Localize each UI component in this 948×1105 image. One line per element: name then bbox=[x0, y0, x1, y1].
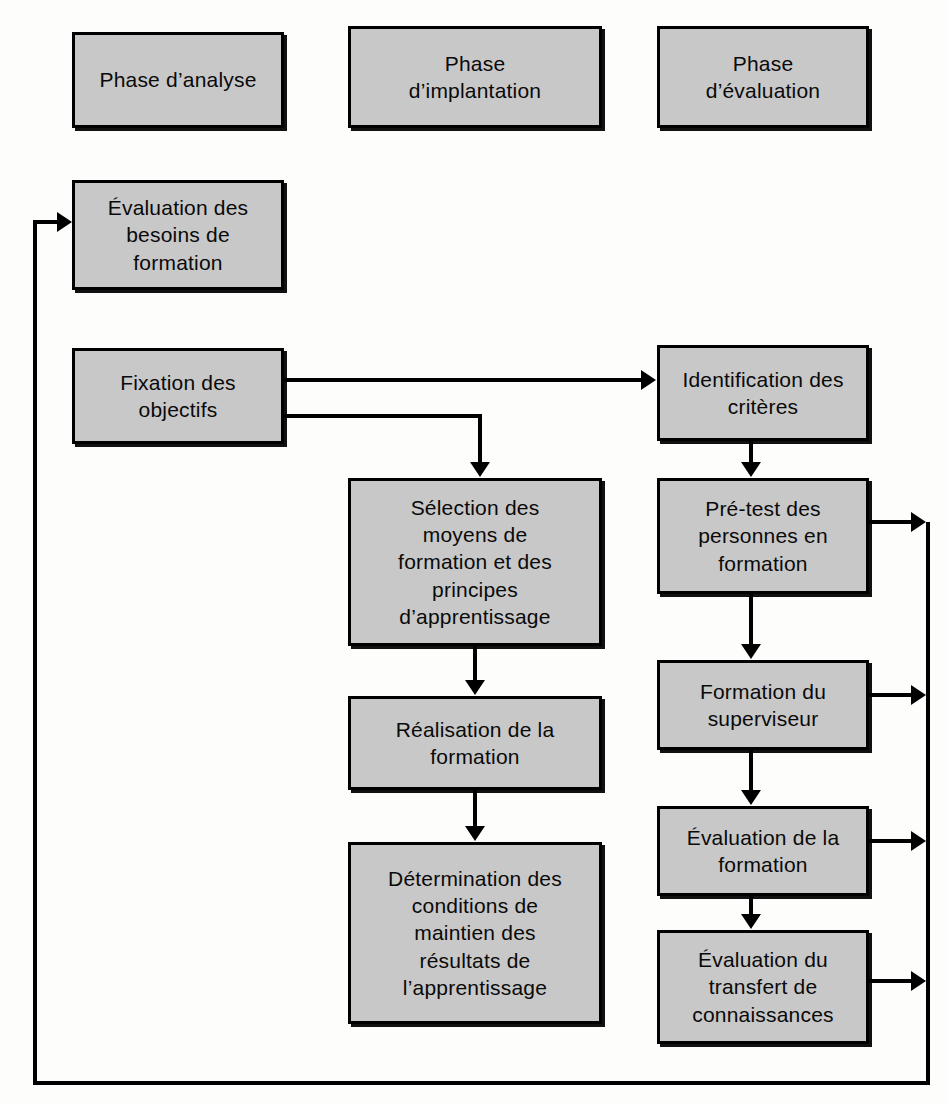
arrowhead-feedback-to-besoins bbox=[57, 212, 72, 232]
arrowhead-superviseur-to-bus bbox=[911, 685, 926, 705]
connector-evaluation-formation-to-bus bbox=[869, 839, 915, 843]
node-identification-criteres: Identification des critères bbox=[657, 345, 869, 441]
arrowhead-evaluation-formation-to-bus bbox=[911, 831, 926, 851]
connector-selection-to-realisation bbox=[473, 646, 477, 682]
connector-fixation-to-identification bbox=[284, 378, 644, 382]
arrowhead-identification-to-pretest bbox=[741, 462, 761, 477]
flowchart-diagram: Phase d’analyse Phase d’implantation Pha… bbox=[0, 0, 948, 1105]
arrowhead-evaluation-formation-to-transfert bbox=[741, 914, 761, 929]
arrowhead-pretest-to-bus bbox=[911, 512, 926, 532]
node-fixation-objectifs: Fixation des objectifs bbox=[72, 348, 284, 444]
arrowhead-transfert-to-bus bbox=[911, 971, 926, 991]
arrowhead-fixation-to-identification bbox=[641, 370, 656, 390]
node-evaluation-besoins: Évaluation des besoins de formation bbox=[72, 180, 284, 290]
arrowhead-pretest-to-superviseur bbox=[741, 644, 761, 659]
node-realisation-formation: Réalisation de la formation bbox=[348, 696, 602, 790]
header-box-phase-analyse: Phase d’analyse bbox=[72, 32, 284, 128]
connector-pretest-to-superviseur bbox=[749, 594, 753, 646]
arrowhead-selection-to-realisation bbox=[465, 680, 485, 695]
node-formation-superviseur: Formation du superviseur bbox=[657, 660, 869, 750]
connector-feedback-bus-vertical bbox=[926, 522, 930, 1085]
header-box-phase-evaluation: Phase d’évaluation bbox=[657, 26, 869, 128]
node-determination-conditions: Détermination des conditions de maintien… bbox=[348, 842, 602, 1024]
node-pre-test: Pré-test des personnes en formation bbox=[657, 478, 869, 594]
connector-superviseur-to-bus bbox=[869, 693, 915, 697]
connector-transfert-to-bus bbox=[869, 979, 915, 983]
connector-fixation-to-selection-vertical bbox=[478, 414, 482, 464]
header-box-phase-implantation: Phase d’implantation bbox=[348, 26, 602, 128]
node-evaluation-transfert: Évaluation du transfert de connaissances bbox=[657, 930, 869, 1044]
node-selection-moyens: Sélection des moyens de formation et des… bbox=[348, 478, 602, 646]
connector-feedback-bottom bbox=[33, 1081, 930, 1085]
connector-superviseur-to-evaluation-formation bbox=[749, 750, 753, 792]
connector-pretest-to-bus bbox=[869, 520, 915, 524]
connector-realisation-to-determination bbox=[473, 790, 477, 828]
node-evaluation-formation: Évaluation de la formation bbox=[657, 806, 869, 896]
connector-fixation-to-selection-horizontal bbox=[284, 414, 482, 418]
connector-feedback-into-besoins bbox=[33, 220, 60, 224]
arrowhead-realisation-to-determination bbox=[465, 826, 485, 841]
arrowhead-fixation-to-selection bbox=[470, 462, 490, 477]
connector-feedback-left-riser bbox=[33, 220, 37, 1085]
connector-evaluation-formation-to-transfert bbox=[749, 896, 753, 916]
arrowhead-superviseur-to-evaluation-formation bbox=[741, 790, 761, 805]
